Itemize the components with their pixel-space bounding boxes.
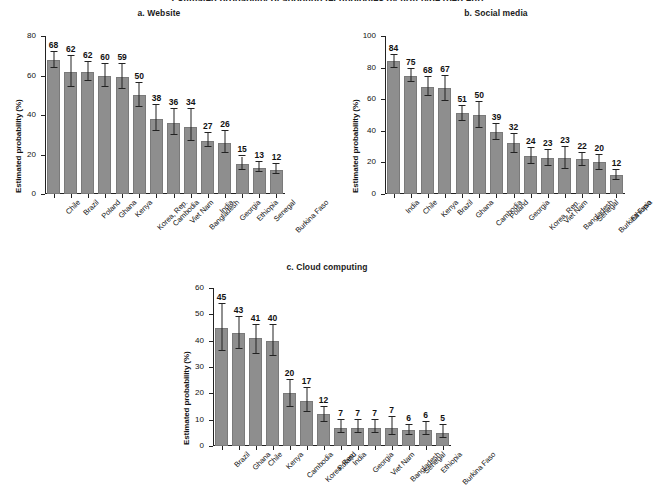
- bar-group[interactable]: 12: [268, 36, 285, 194]
- bar-group[interactable]: 51: [454, 36, 471, 194]
- bar-group[interactable]: 41: [247, 288, 264, 446]
- bar[interactable]: [201, 141, 214, 194]
- bar-group[interactable]: 38: [148, 36, 165, 194]
- error-cap-lower: [561, 168, 568, 169]
- error-cap-lower: [613, 179, 620, 180]
- bar-group[interactable]: 60: [96, 36, 113, 194]
- bar-value-label: 75: [406, 57, 415, 67]
- bar[interactable]: [98, 76, 111, 195]
- bar-group[interactable]: 68: [419, 36, 436, 194]
- bar-group[interactable]: 24: [522, 36, 539, 194]
- bar-group[interactable]: 23: [539, 36, 556, 194]
- error-bar: [53, 52, 54, 68]
- error-cap-lower: [493, 139, 500, 140]
- bar-group[interactable]: 13: [251, 36, 268, 194]
- x-axis-label: Georgia: [526, 198, 551, 223]
- bar-group[interactable]: 20: [591, 36, 608, 194]
- bar-group[interactable]: 22: [574, 36, 591, 194]
- bar-value-label: 6: [423, 410, 428, 420]
- bar-group[interactable]: 84: [385, 36, 402, 194]
- bar-group[interactable]: 7: [383, 288, 400, 446]
- bar[interactable]: [47, 60, 60, 194]
- bar[interactable]: [490, 132, 503, 194]
- bar-group[interactable]: 62: [79, 36, 96, 194]
- bar-group[interactable]: 7: [366, 288, 383, 446]
- bar-group[interactable]: 67: [436, 36, 453, 194]
- error-cap-lower: [544, 165, 551, 166]
- bar[interactable]: [404, 76, 417, 195]
- bar[interactable]: [438, 88, 451, 194]
- bar[interactable]: [133, 95, 146, 194]
- x-tick: [191, 194, 192, 198]
- x-tick: [531, 194, 532, 198]
- bar-group[interactable]: 20: [281, 288, 298, 446]
- error-cap-upper: [407, 68, 414, 69]
- bar-group[interactable]: 17: [298, 288, 315, 446]
- bar[interactable]: [232, 333, 245, 446]
- bar-group[interactable]: 43: [230, 288, 247, 446]
- error-bar: [323, 407, 324, 423]
- bar-group[interactable]: 50: [131, 36, 148, 194]
- bar[interactable]: [64, 72, 77, 194]
- x-axis-label: India: [403, 198, 421, 216]
- x-axis-label: Poland: [100, 198, 122, 220]
- bar-value-label: 32: [509, 122, 518, 132]
- bar[interactable]: [387, 61, 400, 194]
- error-cap-lower: [119, 88, 126, 89]
- bar[interactable]: [421, 87, 434, 194]
- bar-group[interactable]: 68: [45, 36, 62, 194]
- bar-group[interactable]: 6: [417, 288, 434, 446]
- error-bar: [207, 133, 208, 147]
- bar-group[interactable]: 15: [234, 36, 251, 194]
- x-axis-label: Ethiopia: [629, 198, 654, 223]
- bar[interactable]: [116, 77, 129, 194]
- error-cap-upper: [388, 416, 395, 417]
- error-cap-upper: [286, 379, 293, 380]
- bar[interactable]: [81, 72, 94, 194]
- bar-value-label: 38: [152, 93, 161, 103]
- x-tick: [411, 194, 412, 198]
- bar-group[interactable]: 12: [608, 36, 625, 194]
- y-tick-label: 20: [27, 150, 36, 159]
- bar-group[interactable]: 59: [114, 36, 131, 194]
- bar-group[interactable]: 7: [332, 288, 349, 446]
- y-tick-label: 0: [200, 441, 204, 450]
- error-cap-upper: [221, 130, 228, 131]
- bar-group[interactable]: 34: [182, 36, 199, 194]
- error-cap-lower: [101, 86, 108, 87]
- bar-group[interactable]: 12: [315, 288, 332, 446]
- bar-group[interactable]: 62: [62, 36, 79, 194]
- bar[interactable]: [456, 113, 469, 194]
- y-tick-label: 80: [367, 63, 376, 72]
- bar[interactable]: [249, 338, 262, 446]
- bar-group[interactable]: 75: [402, 36, 419, 194]
- bar-value-label: 62: [83, 50, 92, 60]
- y-tick: 0: [41, 194, 45, 195]
- error-cap-upper: [67, 55, 74, 56]
- x-tick: [276, 194, 277, 198]
- bar-group[interactable]: 23: [556, 36, 573, 194]
- bar-group[interactable]: 39: [488, 36, 505, 194]
- bar-value-label: 20: [285, 368, 294, 378]
- bar-value-label: 17: [302, 376, 311, 386]
- bar-group[interactable]: 7: [349, 288, 366, 446]
- bar-group[interactable]: 50: [471, 36, 488, 194]
- bar-group[interactable]: 36: [165, 36, 182, 194]
- bar-group[interactable]: 5: [434, 288, 451, 446]
- bar-group[interactable]: 45: [213, 288, 230, 446]
- bar-group[interactable]: 32: [505, 36, 522, 194]
- error-bar: [173, 109, 174, 135]
- error-cap-upper: [153, 104, 160, 105]
- bar-group[interactable]: 27: [199, 36, 216, 194]
- error-cap-lower: [476, 127, 483, 128]
- panel-c-ylabel: Estimated probability (%): [182, 351, 191, 445]
- bar[interactable]: [266, 341, 279, 446]
- bar-group[interactable]: 40: [264, 288, 281, 446]
- error-cap-lower: [239, 169, 246, 170]
- x-tick: [259, 194, 260, 198]
- bar-group[interactable]: 26: [216, 36, 233, 194]
- y-tick: 20: [41, 155, 45, 156]
- bar-group[interactable]: 6: [400, 288, 417, 446]
- error-cap-upper: [136, 82, 143, 83]
- error-bar: [255, 325, 256, 354]
